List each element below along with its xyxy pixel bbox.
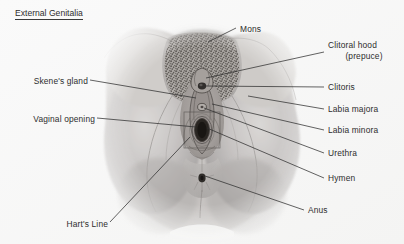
- label-vaginal-opening: Vaginal opening: [0, 114, 95, 125]
- page-title: External Genitalia: [15, 8, 83, 20]
- label-anus: Anus: [308, 205, 328, 216]
- label-harts-line: Hart's Line: [0, 219, 108, 230]
- label-skenes-gland: Skene's gland: [0, 76, 88, 87]
- label-clitoral-hood-line1: Clitoral hood: [328, 40, 377, 50]
- label-labia-minora: Labia minora: [328, 125, 378, 136]
- label-hymen: Hymen: [328, 173, 355, 184]
- label-clitoris: Clitoris: [328, 82, 355, 93]
- label-mons: Mons: [240, 24, 261, 35]
- illustration: [104, 26, 300, 244]
- label-labia-majora: Labia majora: [328, 104, 378, 115]
- label-clitoral-hood-line2: (prepuce): [328, 51, 400, 62]
- label-clitoral-hood: Clitoral hood (prepuce): [328, 40, 400, 62]
- label-urethra: Urethra: [328, 148, 357, 159]
